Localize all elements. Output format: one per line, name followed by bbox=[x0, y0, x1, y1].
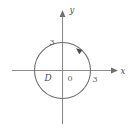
orientation-arrowhead-icon bbox=[76, 48, 83, 54]
math-figure-region-d: 3 3 0 D x y bbox=[0, 0, 131, 132]
region-label-d: D bbox=[43, 73, 51, 83]
x-axis-arrow-icon bbox=[111, 68, 118, 74]
origin-label: 0 bbox=[68, 74, 73, 83]
y-axis-arrow-icon bbox=[60, 10, 66, 17]
x-axis-label: x bbox=[121, 66, 126, 76]
y-tick-label-3: 3 bbox=[49, 38, 54, 47]
y-axis-label: y bbox=[69, 5, 75, 15]
figure-canvas: 3 3 0 D x y bbox=[0, 0, 131, 132]
x-tick-label-3: 3 bbox=[92, 75, 97, 84]
